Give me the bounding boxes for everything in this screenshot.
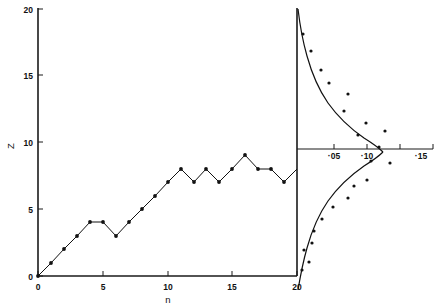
scatter-point [377,145,380,148]
walk-point [192,180,196,184]
random-walk-figure: 0 5 10 15 20 Z 0 5 10 15 20 n [0,0,439,307]
walk-point [49,261,53,265]
scatter-point [312,229,315,232]
scatter-point [356,133,359,136]
scatter-point [346,92,349,95]
y-tick-label-5: 5 [28,205,33,215]
walk-point [75,234,79,238]
x-axis-title: n [165,294,170,305]
scatter-point [307,260,310,263]
walk-point [127,220,131,224]
density-curve-lower [298,152,383,290]
random-walk-series [36,153,297,278]
walk-point [101,220,105,224]
walk-point [204,167,208,171]
inset-tick-label-005: ·05 [328,151,341,161]
y-tick-label-10: 10 [24,138,34,148]
scatter-point [302,248,305,251]
scatter-point [346,196,349,199]
y-tick-label-15: 15 [24,71,34,81]
y-tick-label-0: 0 [28,272,33,282]
y-axis-tick-labels: 0 5 10 15 20 [24,5,34,282]
walk-point [269,167,273,171]
y-axis-title: Z [5,143,16,149]
walk-point [230,167,234,171]
scatter-point [365,178,368,181]
x-tick-label-10: 10 [163,282,173,292]
scatter-point [352,184,355,187]
scatter-point [319,68,322,71]
walk-point [256,167,260,171]
walk-point [166,180,170,184]
x-axis-tick-labels: 0 5 10 15 20 [36,282,302,292]
random-walk-path [38,155,297,276]
scatter-point [388,161,391,164]
random-walk-markers [36,153,286,278]
scatter-point [300,268,303,271]
walk-point [88,220,92,224]
scatter-point [342,109,345,112]
inset-tick-label-015: ·15 [415,151,428,161]
scatter-point [301,32,304,35]
scatter-point [331,205,334,208]
chart-canvas: 0 5 10 15 20 Z 0 5 10 15 20 n [0,0,439,307]
scatter-point [383,129,386,132]
x-tick-label-0: 0 [36,282,41,292]
x-tick-label-15: 15 [227,282,237,292]
walk-point [179,167,183,171]
walk-point [282,180,286,184]
scatter-point [369,159,372,162]
walk-point [243,153,247,157]
walk-point [114,234,118,238]
walk-point [217,180,221,184]
scatter-point [310,241,313,244]
x-tick-label-5: 5 [101,282,106,292]
walk-point [62,247,66,251]
scatter-point [327,81,330,84]
x-tick-label-20: 20 [292,282,302,292]
scatter-point [320,217,323,220]
scatter-point [309,49,312,52]
walk-point [153,194,157,198]
inset-probability-axis: ·05 ·10 ·15 [297,144,433,161]
scatter-point [364,121,367,124]
walk-point [140,207,144,211]
y-tick-label-20: 20 [24,5,34,15]
walk-point [36,274,40,278]
